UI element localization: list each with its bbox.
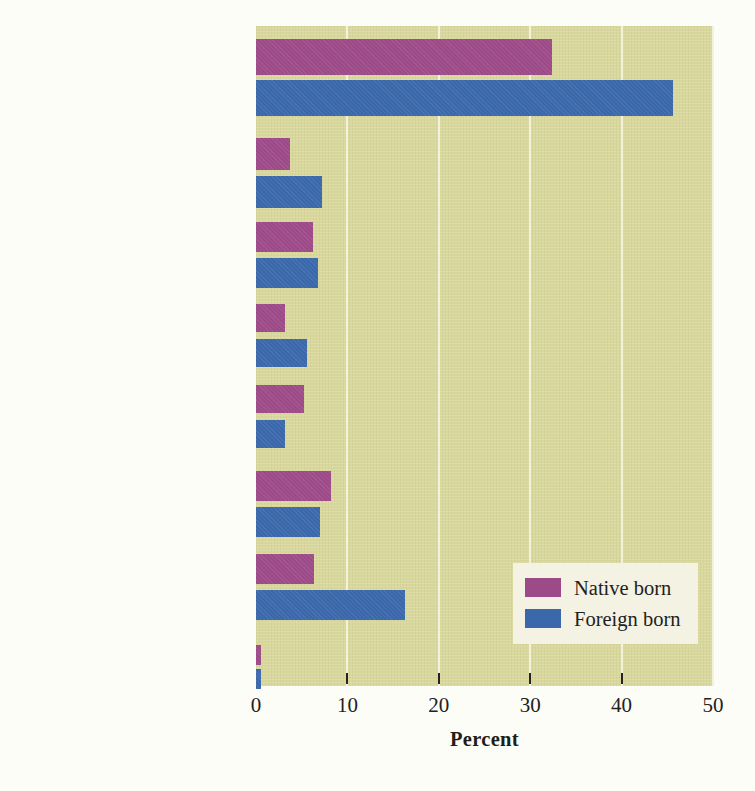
x-tick-label-20: 20 xyxy=(409,694,469,716)
bar-group xyxy=(256,471,713,537)
x-tick-20 xyxy=(438,673,440,684)
x-tick-label-10: 10 xyxy=(317,694,377,716)
legend-label: Native born xyxy=(574,577,671,599)
chart-page: All science and engineering fieldsComput… xyxy=(0,0,755,791)
x-tick-label-0: 0 xyxy=(226,694,286,716)
bar xyxy=(256,590,405,620)
legend-swatch-foreign xyxy=(525,609,561,628)
legend-swatch-native xyxy=(525,578,561,597)
bar-group xyxy=(256,222,713,288)
bar-group xyxy=(256,645,713,689)
x-tick-30 xyxy=(529,673,531,684)
bar xyxy=(256,80,673,116)
bar xyxy=(256,176,322,208)
bar xyxy=(256,471,331,501)
legend-item[interactable]: Native born xyxy=(525,572,688,603)
x-axis-title: Percent xyxy=(256,728,713,751)
bar xyxy=(256,420,285,448)
bar xyxy=(256,385,304,413)
bar xyxy=(256,304,285,332)
bar-group xyxy=(256,385,713,448)
bar xyxy=(256,669,261,689)
x-tick-label-50: 50 xyxy=(683,694,743,716)
legend-label: Foreign born xyxy=(574,608,680,630)
bar-group xyxy=(256,138,713,208)
x-tick-40 xyxy=(621,673,623,684)
bar xyxy=(256,554,314,584)
bar xyxy=(256,39,552,75)
bar xyxy=(256,222,313,252)
bar xyxy=(256,138,290,170)
bar-group xyxy=(256,304,713,367)
x-tick-label-30: 30 xyxy=(500,694,560,716)
bar xyxy=(256,507,320,537)
legend-item[interactable]: Foreign born xyxy=(525,603,688,634)
chart-legend: Native bornForeign born xyxy=(513,563,698,644)
x-tick-10 xyxy=(346,673,348,684)
x-tick-label-40: 40 xyxy=(592,694,652,716)
bar xyxy=(256,258,318,288)
bar xyxy=(256,645,261,665)
bar-group xyxy=(256,39,713,116)
bar xyxy=(256,339,307,367)
